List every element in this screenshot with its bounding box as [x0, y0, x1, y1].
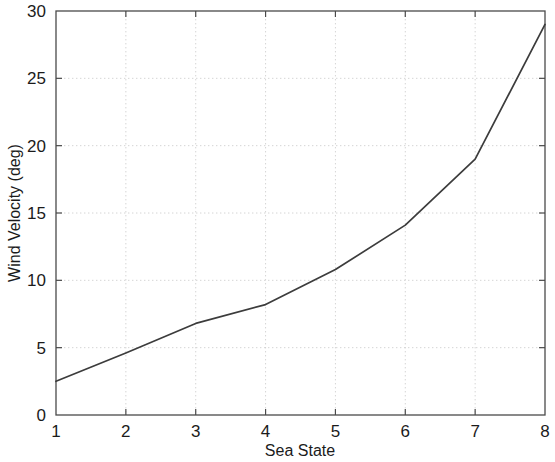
y-tick-label: 15 — [27, 204, 46, 223]
x-tick-label: 2 — [121, 422, 130, 441]
y-tick-label: 10 — [27, 271, 46, 290]
y-axis-title: Wind Velocity (deg) — [6, 144, 23, 282]
y-tick-label: 0 — [37, 406, 46, 425]
x-tick-label: 6 — [401, 422, 410, 441]
chart-background — [0, 0, 555, 462]
y-tick-label: 5 — [37, 339, 46, 358]
x-tick-label: 1 — [51, 422, 60, 441]
y-tick-label: 25 — [27, 69, 46, 88]
x-tick-label: 8 — [540, 422, 549, 441]
x-tick-label: 7 — [470, 422, 479, 441]
y-tick-label: 20 — [27, 137, 46, 156]
y-tick-label: 30 — [27, 2, 46, 21]
x-tick-label: 4 — [261, 422, 270, 441]
chart-figure: 12345678 051015202530 Sea State Wind Vel… — [0, 0, 555, 462]
x-axis-title: Sea State — [265, 442, 335, 459]
x-tick-label: 3 — [191, 422, 200, 441]
line-chart: 12345678 051015202530 Sea State Wind Vel… — [0, 0, 555, 462]
x-tick-label: 5 — [331, 422, 340, 441]
